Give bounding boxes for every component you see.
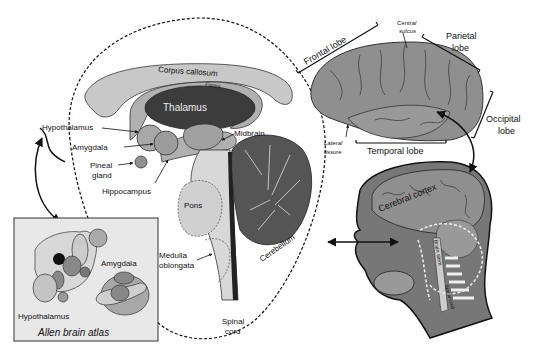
label-lateral: Lateral [324,140,343,146]
label-parietal: Parietal [446,31,477,41]
label-hypothalamus: Hypothalamus [42,123,93,132]
hypothalamus-bracket [40,128,65,162]
label-pineal-gland: gland [92,171,112,180]
label-pons: Pons [184,201,202,210]
label-spinal: Spinal [222,317,244,326]
label-occipital: Occipital [486,114,521,124]
atlas-title: Allen brain atlas [37,327,109,338]
label-medulla: Medulla [159,251,188,260]
brain-anatomy-diagram: Corpus callosum Fornix Thalamus Hypothal… [0,0,543,355]
atlas-label-hypothalamus: Hypothalamus [18,312,69,321]
label-hippocampus: Hippocampus [102,187,151,196]
atlas-label-amygdala: Amygdala [101,259,137,268]
label-pineal: Pineal [90,161,112,170]
label-sulcus: sulcus [399,28,416,34]
label-temporal-lobe: Temporal lobe [367,146,424,156]
arrow-hypothalamus-to-atlas [35,138,60,222]
label-occipital-lobe: lobe [498,126,515,136]
label-spinal-cord: cord [225,327,241,336]
label-amygdala: Amygdala [72,143,108,152]
label-thalamus: Thalamus [163,102,207,113]
cerebellum [232,135,312,245]
label-central: Central [397,20,417,26]
label-midbrain: Midbrain [234,129,265,138]
label-fissure: fissure [324,149,342,155]
label-parietal-lobe: lobe [452,43,469,53]
label-oblongata: oblongata [159,261,195,270]
